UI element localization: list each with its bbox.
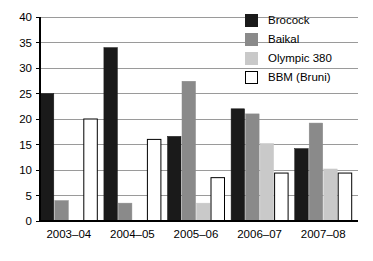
- y-axis-tick-labels: 0510152025303540: [19, 11, 32, 227]
- legend-item: Brocock: [245, 12, 371, 29]
- bar: [197, 203, 211, 221]
- light-gray-swatch: [245, 52, 258, 65]
- bar: [275, 173, 289, 221]
- bar: [211, 178, 225, 221]
- x-axis-category-label: 2004–05: [110, 228, 155, 240]
- x-axis-category-label: 2006–07: [237, 228, 282, 240]
- bar: [246, 114, 260, 221]
- legend-item-label: Baikal: [268, 33, 299, 46]
- legend-item: BBM (Bruni): [245, 69, 371, 86]
- y-axis-tick-label: 15: [19, 139, 32, 151]
- bar: [295, 149, 309, 221]
- bar: [55, 201, 69, 221]
- y-axis-tick-label: 0: [26, 215, 32, 227]
- black-swatch: [245, 14, 258, 27]
- legend-item-label: BBM (Bruni): [268, 71, 331, 84]
- x-axis-category-labels: 2003–042004–052005–062006–072007–08: [46, 228, 345, 240]
- bar: [309, 123, 323, 221]
- bar: [182, 81, 196, 221]
- bar-chart: 0510152025303540 2003–042004–052005–0620…: [0, 0, 373, 261]
- x-axis-category-label: 2003–04: [46, 228, 91, 240]
- x-axis-category-label: 2007–08: [301, 228, 346, 240]
- y-axis-tick-label: 10: [19, 164, 32, 176]
- dark-gray-swatch: [245, 33, 258, 46]
- y-axis-tick-label: 35: [19, 37, 32, 49]
- white-swatch: [245, 71, 258, 84]
- y-axis-tick-label: 20: [19, 113, 32, 125]
- bar: [118, 203, 131, 221]
- y-axis-tick-label: 40: [19, 11, 32, 23]
- chart-legend: BrocockBaikalOlympic 380BBM (Bruni): [245, 12, 371, 86]
- bar: [40, 94, 54, 222]
- bar: [147, 139, 161, 221]
- bar: [324, 169, 338, 221]
- bar: [338, 173, 352, 221]
- bar: [260, 143, 274, 221]
- x-axis-category-label: 2005–06: [174, 228, 219, 240]
- legend-item-label: Olympic 380: [268, 52, 332, 65]
- y-axis-tick-label: 5: [26, 190, 32, 202]
- bar: [168, 136, 182, 221]
- bar: [231, 109, 245, 221]
- y-axis-tick-label: 30: [19, 62, 32, 74]
- y-axis-tick-label: 25: [19, 88, 32, 100]
- bar: [104, 48, 118, 221]
- legend-item: Olympic 380: [245, 50, 371, 67]
- legend-item-label: Brocock: [268, 14, 310, 27]
- legend-item: Baikal: [245, 31, 371, 48]
- bar: [84, 119, 98, 221]
